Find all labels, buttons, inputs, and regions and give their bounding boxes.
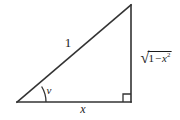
angle-label: v — [47, 85, 52, 96]
angle-arc — [42, 87, 46, 103]
radicand-operator: − — [154, 52, 162, 64]
radicand: 1−x2 — [147, 51, 171, 64]
base-label: x — [80, 103, 85, 115]
hypotenuse-label: 1 — [65, 36, 72, 49]
radicand-exponent: 2 — [167, 51, 170, 58]
triangle-figure: 1 v x √1−x2 — [0, 0, 180, 120]
right-angle-square — [123, 94, 131, 102]
radical-expression: √1−x2 — [141, 50, 172, 66]
vertical-leg-label: √1−x2 — [141, 50, 172, 66]
triangle-hypotenuse-line — [17, 5, 131, 102]
